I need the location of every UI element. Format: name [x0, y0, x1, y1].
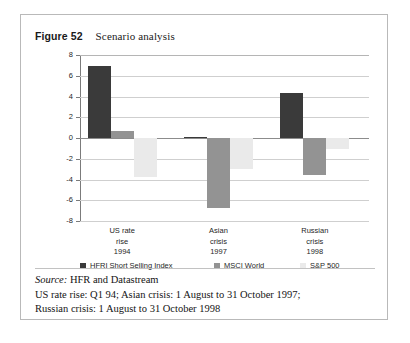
- bar: [230, 138, 253, 169]
- figure-footnotes: Source: HFR and Datastream US rate rise:…: [35, 273, 379, 317]
- gridline-4: [80, 97, 369, 98]
- x-category-line: crisis: [179, 237, 259, 248]
- footer-divider: [35, 268, 375, 269]
- x-category-label: Russiancrisis1998: [275, 226, 355, 258]
- y-tick-label: 8: [35, 50, 73, 59]
- bar: [303, 138, 326, 175]
- y-tick-label: -2: [35, 154, 73, 163]
- source-value: HFR and Datastream: [67, 274, 158, 285]
- figure-container: Figure 52Scenario analysis Three-month t…: [20, 14, 388, 320]
- source-line: Source: HFR and Datastream: [35, 273, 379, 288]
- gridline--8: [80, 221, 369, 222]
- figure-number: Figure 52: [35, 30, 83, 42]
- bar: [111, 131, 134, 138]
- x-category-line: Russian: [275, 226, 355, 237]
- y-tick-label: 4: [35, 92, 73, 101]
- y-tick-label: 2: [35, 112, 73, 121]
- y-tick-label: 6: [35, 71, 73, 80]
- bar: [184, 137, 207, 138]
- gridline-8: [80, 55, 369, 56]
- gridline-6: [80, 76, 369, 77]
- figure-caption: Figure 52Scenario analysis: [35, 26, 175, 44]
- plot-area: [80, 55, 369, 221]
- figure-title: Scenario analysis: [96, 30, 175, 42]
- bar: [326, 138, 349, 149]
- chart-legend: HFRI Short Selling IndexMSCI WorldS&P 50…: [80, 261, 380, 273]
- y-tick-label: -4: [35, 175, 73, 184]
- x-category-line: 1997: [179, 247, 259, 258]
- source-label: Source:: [35, 274, 67, 285]
- gridline-2: [80, 117, 369, 118]
- bar: [207, 138, 230, 208]
- bar: [88, 66, 111, 138]
- x-category-line: 1994: [82, 247, 162, 258]
- bar: [134, 138, 157, 177]
- x-category-label: US raterise1994: [82, 226, 162, 258]
- x-category-label: Asiancrisis1997: [179, 226, 259, 258]
- bar: [280, 93, 303, 138]
- x-category-line: rise: [82, 237, 162, 248]
- y-tick-label: -6: [35, 195, 73, 204]
- x-category-line: Asian: [179, 226, 259, 237]
- footnote-line-2: US rate rise: Q1 94; Asian crisis: 1 Aug…: [35, 288, 379, 303]
- bar-chart: Three-month total return (%) 86420-2-4-6…: [35, 47, 375, 259]
- x-category-line: US rate: [82, 226, 162, 237]
- x-category-line: crisis: [275, 237, 355, 248]
- y-tick-label: -8: [35, 216, 73, 225]
- y-tick-label: 0: [35, 133, 73, 142]
- x-category-line: 1998: [275, 247, 355, 258]
- footnote-line-3: Russian crisis: 1 August to 31 October 1…: [35, 302, 379, 317]
